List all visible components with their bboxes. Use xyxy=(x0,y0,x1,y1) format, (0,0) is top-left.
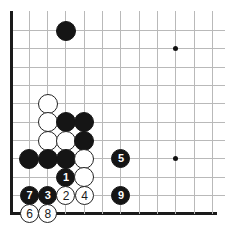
stone-move-number: 7 xyxy=(26,190,32,201)
stone-white[interactable] xyxy=(56,131,76,151)
grid-line-horizontal xyxy=(11,85,225,86)
stone-black[interactable] xyxy=(56,112,76,132)
stone-white-move-4[interactable]: 4 xyxy=(75,186,94,205)
stone-white[interactable] xyxy=(38,112,58,132)
grid-line-vertical xyxy=(175,11,176,215)
stone-black[interactable] xyxy=(56,149,76,169)
stone-move-number: 2 xyxy=(63,190,69,202)
stone-move-number: 4 xyxy=(81,190,87,202)
grid-line-horizontal xyxy=(11,67,225,68)
stone-black-move-9[interactable]: 9 xyxy=(111,186,130,205)
stone-white[interactable] xyxy=(74,167,94,187)
stone-black[interactable] xyxy=(56,21,76,41)
stone-white[interactable] xyxy=(74,149,94,169)
stone-move-number: 5 xyxy=(118,153,124,164)
stone-black[interactable] xyxy=(38,149,58,169)
grid-line-vertical xyxy=(139,11,140,215)
stone-move-number: 1 xyxy=(63,172,69,183)
stone-move-number: 8 xyxy=(44,208,50,220)
star-point xyxy=(173,46,178,51)
grid-line-horizontal xyxy=(11,177,225,178)
board-edge-left xyxy=(10,11,13,216)
stone-white-move-6[interactable]: 6 xyxy=(20,204,39,223)
grid-line-vertical xyxy=(212,11,213,215)
grid-line-vertical xyxy=(120,11,121,215)
star-point xyxy=(173,156,178,161)
go-board-diagram[interactable]: 517324968 xyxy=(0,0,234,234)
grid-line-vertical xyxy=(29,11,30,215)
stone-white[interactable] xyxy=(38,94,58,114)
stone-black-move-3[interactable]: 3 xyxy=(38,186,57,205)
grid-line-vertical xyxy=(102,11,103,215)
stone-black[interactable] xyxy=(74,112,94,132)
stone-white-move-8[interactable]: 8 xyxy=(38,204,57,223)
stone-move-number: 6 xyxy=(26,208,32,220)
stone-black-move-7[interactable]: 7 xyxy=(20,186,39,205)
stone-white-move-2[interactable]: 2 xyxy=(56,186,75,205)
stone-move-number: 9 xyxy=(118,190,124,201)
stone-black-move-5[interactable]: 5 xyxy=(111,149,130,168)
stone-black[interactable] xyxy=(74,131,94,151)
grid-line-vertical xyxy=(194,11,195,215)
stone-move-number: 3 xyxy=(45,190,51,201)
stone-black[interactable] xyxy=(19,149,39,169)
stone-white[interactable] xyxy=(38,131,58,151)
grid-line-horizontal xyxy=(11,30,225,31)
stone-black-move-1[interactable]: 1 xyxy=(56,168,75,187)
grid-line-vertical xyxy=(157,11,158,215)
grid-line-horizontal xyxy=(11,48,225,49)
